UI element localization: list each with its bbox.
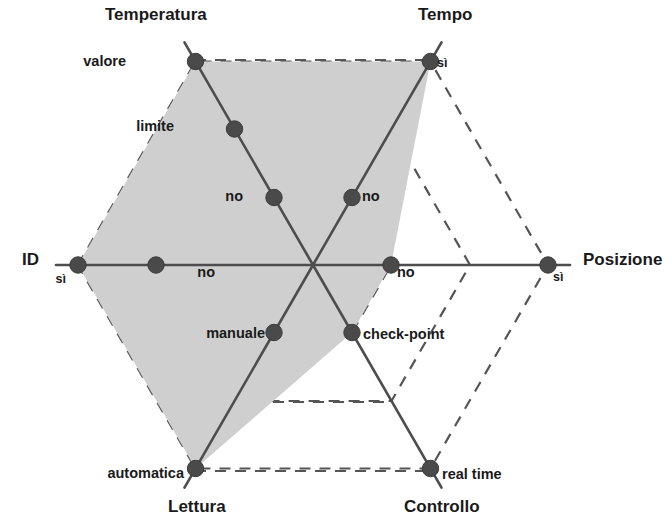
axis-title-posizione: Posizione (583, 250, 662, 269)
radar-chart: sìnovalorelimitenosìnosìnoreal timecheck… (0, 0, 672, 532)
value-label-temperatura-1: no (225, 188, 243, 204)
axis-title-temperatura: Temperatura (105, 5, 207, 24)
value-label-posizione-3: sì (553, 270, 563, 284)
value-label-posizione-1: no (397, 264, 415, 280)
value-label-controllo-3: real time (442, 466, 502, 482)
value-label-tempo-3: sì (437, 56, 447, 70)
axis-title-controllo: Controllo (404, 497, 480, 516)
data-point-temperatura-2[interactable] (226, 121, 242, 137)
value-label-id-2: no (197, 264, 215, 280)
value-label-controllo-1: check-point (363, 326, 445, 342)
data-point-tempo-1[interactable] (344, 189, 360, 205)
data-point-temperatura-3[interactable] (187, 53, 203, 69)
value-label-id-3: sì (56, 272, 66, 286)
value-label-temperatura-3: valore (83, 53, 126, 69)
data-point-lettura-1[interactable] (266, 324, 282, 340)
radar-svg: sìnovalorelimitenosìnosìnoreal timecheck… (0, 0, 672, 532)
value-label-lettura-3: automatica (107, 465, 184, 481)
axis-title-tempo: Tempo (418, 5, 472, 24)
data-point-controllo-3[interactable] (422, 460, 438, 476)
axis-line-controllo (313, 265, 442, 488)
value-label-tempo-1: no (362, 188, 380, 204)
value-label-temperatura-2: limite (136, 118, 174, 134)
data-point-id-2[interactable] (148, 257, 164, 273)
data-point-temperatura-1[interactable] (266, 189, 282, 205)
axis-title-lettura: Lettura (168, 497, 226, 516)
value-label-lettura-1: manuale (206, 325, 265, 341)
data-point-id-3[interactable] (70, 257, 86, 273)
axis-title-id: ID (22, 250, 39, 269)
data-point-lettura-3[interactable] (187, 460, 203, 476)
data-point-controllo-1[interactable] (344, 324, 360, 340)
